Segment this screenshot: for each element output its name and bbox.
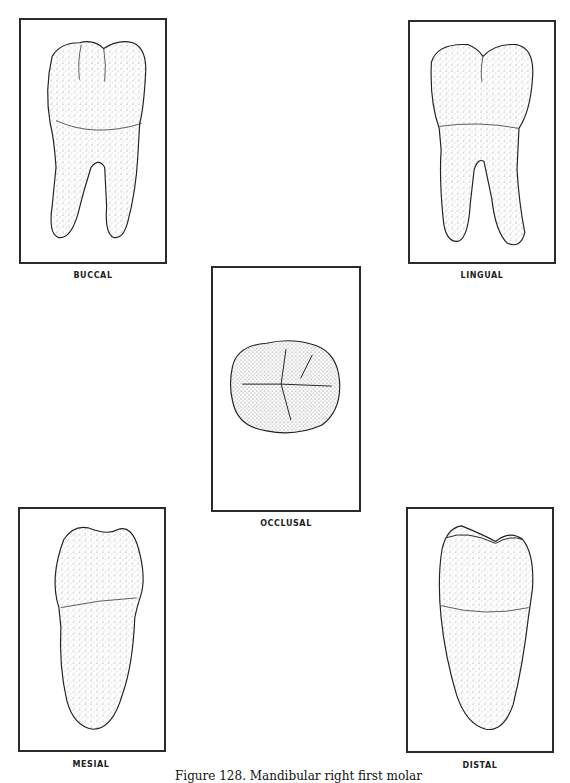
lingual-view-panel <box>408 20 556 264</box>
figure-caption: Figure 128. Mandibular right first molar <box>175 769 422 783</box>
occlusal-label: OCCLUSAL <box>211 519 361 528</box>
mesial-tooth-illustration <box>20 509 164 750</box>
mesial-view-panel <box>18 507 166 752</box>
distal-label: DISTAL <box>405 761 555 770</box>
distal-tooth-illustration <box>408 509 552 751</box>
occlusal-tooth-illustration <box>213 268 359 510</box>
mesial-label: MESIAL <box>16 760 166 769</box>
lingual-tooth-illustration <box>410 22 554 262</box>
occlusal-view-panel <box>211 266 361 512</box>
lingual-label: LINGUAL <box>407 271 557 280</box>
distal-view-panel <box>406 507 554 753</box>
buccal-tooth-illustration <box>21 20 165 262</box>
buccal-label: BUCCAL <box>18 271 168 280</box>
buccal-view-panel <box>19 18 167 264</box>
